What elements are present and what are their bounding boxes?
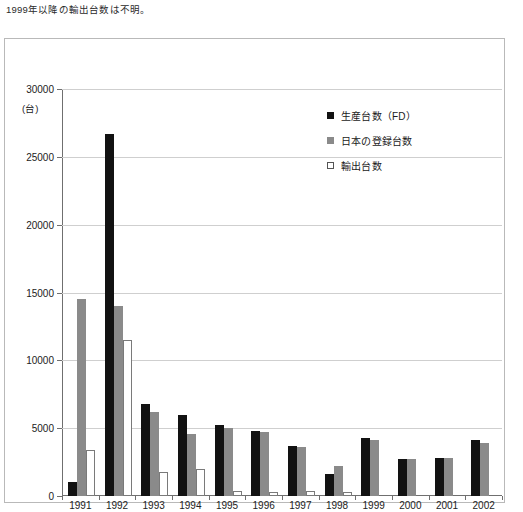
gridline xyxy=(62,157,502,158)
bar-1997-series-2 xyxy=(297,447,306,496)
legend-label: 日本の登録台数 xyxy=(341,133,412,148)
x-tick-mark xyxy=(282,496,283,500)
x-tick-label-1993: 1993 xyxy=(143,500,165,511)
x-tick-label-1992: 1992 xyxy=(106,500,128,511)
chart-legend: 生産台数（FD）日本の登録台数輸出台数 xyxy=(327,103,416,178)
x-tick-label-2002: 2002 xyxy=(473,500,495,511)
bar-1993-series-1 xyxy=(141,404,150,496)
x-tick-label-1991: 1991 xyxy=(69,500,91,511)
bar-1995-series-1 xyxy=(215,425,224,496)
legend-swatch-icon xyxy=(327,137,334,144)
bar-1995-series-2 xyxy=(224,428,233,497)
plot-area: 300002500020000150001000050000 199119921… xyxy=(62,89,502,496)
legend-label: 輸出台数 xyxy=(341,158,382,173)
y-tick-mark xyxy=(57,157,62,158)
bar-1992-series-2 xyxy=(114,306,123,496)
y-tick-mark xyxy=(57,428,62,429)
x-tick-label-2001: 2001 xyxy=(436,500,458,511)
bar-1994-series-2 xyxy=(187,434,196,496)
x-tick-label-1999: 1999 xyxy=(363,500,385,511)
y-tick-label: 30000 xyxy=(26,84,54,95)
legend-item-2[interactable]: 日本の登録台数 xyxy=(327,128,416,153)
bar-1996-series-1 xyxy=(251,431,260,496)
x-tick-label-2000: 2000 xyxy=(399,500,421,511)
gridline xyxy=(62,225,502,226)
bar-2001-series-1 xyxy=(435,458,444,496)
x-tick-label-1998: 1998 xyxy=(326,500,348,511)
legend-item-3[interactable]: 輸出台数 xyxy=(327,153,416,178)
y-tick-label: 10000 xyxy=(26,355,54,366)
y-axis-unit-label: (台) xyxy=(22,101,38,115)
bar-2000-series-1 xyxy=(398,459,407,496)
legend-swatch-icon xyxy=(327,112,334,119)
x-tick-mark xyxy=(62,496,63,500)
y-tick-mark xyxy=(57,293,62,294)
bar-1991-series-1 xyxy=(68,482,77,496)
gridline xyxy=(62,293,502,294)
x-tick-mark xyxy=(99,496,100,500)
bar-1999-series-1 xyxy=(361,438,370,496)
legend-item-1[interactable]: 生産台数（FD） xyxy=(327,103,416,128)
y-tick-label: 25000 xyxy=(26,151,54,162)
y-tick-mark xyxy=(57,225,62,226)
x-tick-label-1995: 1995 xyxy=(216,500,238,511)
bar-1992-series-3 xyxy=(123,340,132,496)
x-tick-mark xyxy=(209,496,210,500)
x-tick-mark xyxy=(319,496,320,500)
bar-2000-series-2 xyxy=(407,459,416,496)
legend-label: 生産台数（FD） xyxy=(341,108,416,123)
x-tick-mark xyxy=(245,496,246,500)
x-tick-mark xyxy=(135,496,136,500)
bar-1998-series-3 xyxy=(343,492,352,496)
bar-1991-series-3 xyxy=(86,450,95,496)
chart-note-caption: 1999年以降の輸出台数は不明。 xyxy=(6,3,150,16)
x-tick-mark xyxy=(502,496,503,500)
x-tick-mark xyxy=(465,496,466,500)
bar-1993-series-2 xyxy=(150,412,159,496)
legend-swatch-icon xyxy=(327,162,334,169)
bar-2001-series-2 xyxy=(444,458,453,496)
bar-1991-series-2 xyxy=(77,299,86,496)
gridline xyxy=(62,89,502,90)
bar-1993-series-3 xyxy=(159,472,168,496)
x-tick-mark xyxy=(392,496,393,500)
bar-1999-series-2 xyxy=(370,440,379,496)
x-tick-label-1994: 1994 xyxy=(179,500,201,511)
y-tick-label: 20000 xyxy=(26,219,54,230)
bar-1997-series-1 xyxy=(288,446,297,496)
bar-1996-series-2 xyxy=(260,432,269,496)
bar-1994-series-3 xyxy=(196,469,205,496)
bar-1998-series-1 xyxy=(325,474,334,496)
bar-1996-series-3 xyxy=(269,492,278,496)
x-tick-label-1996: 1996 xyxy=(253,500,275,511)
y-tick-label: 5000 xyxy=(32,423,54,434)
bar-2002-series-2 xyxy=(480,443,489,496)
x-tick-mark xyxy=(429,496,430,500)
bar-1998-series-2 xyxy=(334,466,343,496)
x-tick-mark xyxy=(355,496,356,500)
bar-1992-series-1 xyxy=(105,134,114,496)
x-tick-label-1997: 1997 xyxy=(289,500,311,511)
y-tick-mark xyxy=(57,89,62,90)
bar-1995-series-3 xyxy=(233,491,242,496)
y-tick-label: 15000 xyxy=(26,287,54,298)
x-tick-mark xyxy=(172,496,173,500)
y-tick-mark xyxy=(57,360,62,361)
bar-1994-series-1 xyxy=(178,415,187,496)
bar-2002-series-1 xyxy=(471,440,480,496)
y-tick-label: 0 xyxy=(48,491,54,502)
chart-figure-frame: (台) (年) 300002500020000150001000050000 1… xyxy=(4,38,505,503)
bar-1997-series-3 xyxy=(306,491,315,496)
